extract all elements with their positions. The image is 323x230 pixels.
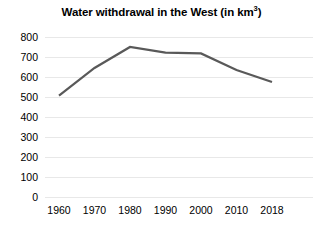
y-axis-tick-label: 100 xyxy=(20,171,38,183)
x-axis-tick-label: 1980 xyxy=(118,204,142,216)
line-chart: Water withdrawal in the West (in km3) 80… xyxy=(0,0,323,230)
y-axis-tick-labels: 8007006005004003002001000 xyxy=(20,31,38,203)
x-axis-tick-label: 1960 xyxy=(47,204,71,216)
y-axis-tick-label: 300 xyxy=(20,131,38,143)
y-axis-tick-label: 500 xyxy=(20,91,38,103)
x-axis-tick-label: 2010 xyxy=(225,204,249,216)
y-axis-tick-label: 400 xyxy=(20,111,38,123)
x-axis-tick-label: 2018 xyxy=(260,204,284,216)
y-axis-tick-label: 700 xyxy=(20,51,38,63)
y-axis-tick-label: 0 xyxy=(32,191,38,203)
series-line xyxy=(59,47,272,96)
y-axis-tick-label: 200 xyxy=(20,151,38,163)
x-axis-tick-label: 1970 xyxy=(83,204,107,216)
data-series xyxy=(59,47,272,96)
gridlines xyxy=(45,37,313,197)
x-axis-tick-label: 2000 xyxy=(189,204,213,216)
y-axis-tick-label: 800 xyxy=(20,31,38,43)
x-axis-tick-labels: 1960197019801990200020102018 xyxy=(47,204,284,216)
x-axis-tick-label: 1990 xyxy=(154,204,178,216)
y-axis-tick-label: 600 xyxy=(20,71,38,83)
plot-area: 8007006005004003002001000 19601970198019… xyxy=(0,0,323,230)
